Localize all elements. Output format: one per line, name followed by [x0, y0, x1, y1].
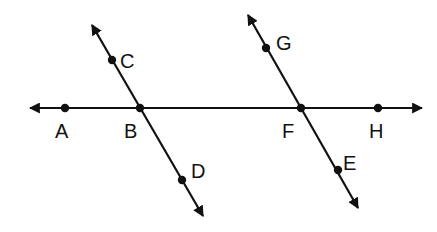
geometry-diagram: ABCDGFEH [0, 0, 437, 232]
point-g [262, 44, 270, 52]
point-label-b: B [124, 120, 137, 142]
point-label-g: G [276, 32, 292, 54]
point-label-h: H [369, 120, 383, 142]
point-label-c: C [120, 50, 134, 72]
line-cd [92, 25, 203, 216]
point-h [374, 104, 382, 112]
diagram-svg: ABCDGFEH [0, 0, 437, 232]
point-label-e: E [343, 152, 356, 174]
point-a [61, 104, 69, 112]
lines [30, 15, 422, 216]
point-b [136, 104, 144, 112]
point-label-f: F [282, 120, 294, 142]
point-f [297, 104, 305, 112]
point-d [178, 176, 186, 184]
point-label-a: A [55, 120, 69, 142]
point-e [334, 166, 342, 174]
point-c [108, 56, 116, 64]
point-label-d: D [191, 160, 205, 182]
